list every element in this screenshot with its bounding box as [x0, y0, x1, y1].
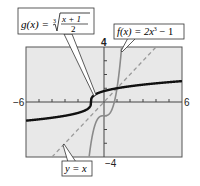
- g-numerator: x + 1: [61, 14, 81, 24]
- f-label: f(x) = 2x3 − 1: [117, 26, 173, 38]
- g-root-index: 3: [53, 18, 56, 24]
- identity-label: y = x: [64, 163, 87, 174]
- g-label-prefix: g(x) =: [21, 18, 49, 31]
- tick-y-min: −4: [105, 158, 117, 169]
- g-denominator: 2: [71, 24, 76, 34]
- graph-figure: −6 6 4 −4 g(x) = 3 x + 1 2 f(x) = 2x3 − …: [0, 0, 200, 186]
- tick-x-min: −6: [13, 97, 25, 108]
- tick-x-max: 6: [184, 97, 190, 108]
- tick-y-max: 4: [101, 37, 107, 48]
